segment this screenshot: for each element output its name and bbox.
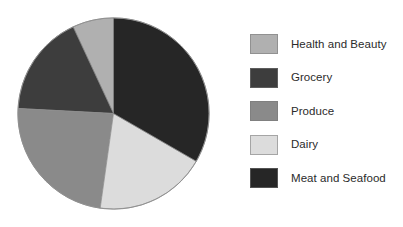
legend-label-health-and-beauty: Health and Beauty [291,38,386,51]
legend-item-meat-and-seafood[interactable]: Meat and Seafood [250,167,386,189]
legend-swatch-meat-and-seafood [250,168,278,188]
legend-label-produce: Produce [291,105,334,118]
pie-svg [17,17,210,210]
legend-swatch-health-and-beauty [250,34,278,54]
pie-chart-figure: Health and Beauty Grocery Produce Dairy … [0,0,403,227]
legend-label-dairy: Dairy [291,138,318,151]
legend-item-health-and-beauty[interactable]: Health and Beauty [250,33,386,55]
legend-label-grocery: Grocery [291,71,332,84]
pie-slice-produce[interactable] [18,109,114,209]
legend-swatch-grocery [250,68,278,88]
legend-item-produce[interactable]: Produce [250,100,334,122]
legend-item-grocery[interactable]: Grocery [250,67,332,89]
legend-swatch-produce [250,101,278,121]
legend-swatch-dairy [250,135,278,155]
legend-item-dairy[interactable]: Dairy [250,134,318,156]
pie-slices [18,18,209,209]
chart-legend: Health and Beauty Grocery Produce Dairy … [250,33,403,195]
pie-chart-graphic [17,17,210,210]
legend-label-meat-and-seafood: Meat and Seafood [291,172,386,185]
